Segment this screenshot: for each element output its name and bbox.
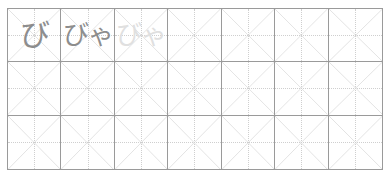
practice-cell[interactable] [329,116,382,169]
handwriting-practice-worksheet: びびゃびゃ [0,0,391,174]
vertical-center-guide-icon [34,116,35,169]
diagonal-x-guide-icon [61,62,113,114]
horizontal-center-guide-icon [275,142,327,143]
practice-cell[interactable] [275,62,328,115]
horizontal-center-guide-icon [115,142,167,143]
vertical-center-guide-icon [194,116,195,169]
vertical-center-guide-icon [141,62,142,114]
horizontal-center-guide-icon [61,88,113,89]
practice-cell[interactable] [61,62,114,115]
vertical-center-guide-icon [248,9,249,61]
practice-cell[interactable] [222,62,275,115]
diagonal-x-guide-icon [115,62,167,114]
vertical-center-guide-icon [34,62,35,114]
diagonal-x-guide-icon [8,62,60,114]
practice-cell[interactable] [329,62,382,115]
vertical-center-guide-icon [301,116,302,169]
practice-cell[interactable] [115,116,168,169]
vertical-center-guide-icon [248,116,249,169]
vertical-center-guide-icon [301,62,302,114]
diagonal-x-guide-icon [168,9,220,61]
practice-cell[interactable]: び [8,9,61,62]
practice-cell[interactable] [329,9,382,62]
vertical-center-guide-icon [141,116,142,169]
practice-cell[interactable] [8,62,61,115]
horizontal-center-guide-icon [329,142,382,143]
diagonal-x-guide-icon [329,9,382,61]
vertical-center-guide-icon [355,62,356,114]
diagonal-x-guide-icon [275,116,327,169]
diagonal-x-guide-icon [222,116,274,169]
horizontal-center-guide-icon [8,88,60,89]
diagonal-x-guide-icon [61,116,113,169]
written-character: びゃ [115,9,167,61]
horizontal-center-guide-icon [329,35,382,36]
practice-cell[interactable]: びゃ [115,9,168,62]
horizontal-center-guide-icon [275,35,327,36]
practice-cell[interactable] [61,116,114,169]
vertical-center-guide-icon [301,9,302,61]
diagonal-x-guide-icon [275,9,327,61]
vertical-center-guide-icon [355,9,356,61]
practice-cell[interactable] [168,62,221,115]
vertical-center-guide-icon [248,62,249,114]
written-character: び [8,9,60,61]
practice-cell[interactable] [222,9,275,62]
practice-cell[interactable] [8,116,61,169]
diagonal-x-guide-icon [8,116,60,169]
horizontal-center-guide-icon [168,88,220,89]
diagonal-x-guide-icon [168,62,220,114]
diagonal-x-guide-icon [222,9,274,61]
practice-cell[interactable] [168,9,221,62]
diagonal-x-guide-icon [275,62,327,114]
practice-cell[interactable] [275,116,328,169]
practice-cell[interactable]: びゃ [61,9,114,62]
practice-grid-frame: びびゃびゃ [7,8,383,170]
horizontal-center-guide-icon [8,142,60,143]
practice-cell[interactable] [168,116,221,169]
horizontal-center-guide-icon [168,142,220,143]
diagonal-x-guide-icon [329,116,382,169]
horizontal-center-guide-icon [222,142,274,143]
vertical-center-guide-icon [194,9,195,61]
diagonal-x-guide-icon [168,116,220,169]
vertical-center-guide-icon [88,62,89,114]
practice-cell[interactable] [115,62,168,115]
horizontal-center-guide-icon [275,88,327,89]
horizontal-center-guide-icon [329,88,382,89]
diagonal-x-guide-icon [329,62,382,114]
diagonal-x-guide-icon [222,62,274,114]
horizontal-center-guide-icon [61,142,113,143]
written-character: びゃ [61,9,113,61]
horizontal-center-guide-icon [115,88,167,89]
vertical-center-guide-icon [194,62,195,114]
horizontal-center-guide-icon [168,35,220,36]
diagonal-x-guide-icon [115,116,167,169]
horizontal-center-guide-icon [222,35,274,36]
practice-cell[interactable] [222,116,275,169]
vertical-center-guide-icon [88,116,89,169]
practice-grid: びびゃびゃ [8,9,382,169]
horizontal-center-guide-icon [222,88,274,89]
practice-cell[interactable] [275,9,328,62]
vertical-center-guide-icon [355,116,356,169]
